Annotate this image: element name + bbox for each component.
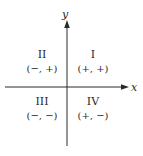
- y-axis: y: [61, 8, 70, 146]
- quadrant-i: I (+, +): [78, 48, 109, 74]
- x-axis-arrow-icon: [121, 84, 129, 90]
- quadrant-i-numeral: I: [91, 48, 95, 61]
- quadrant-ii-signs: (−, +): [27, 63, 58, 74]
- quadrant-ii: II (−, +): [27, 48, 58, 74]
- y-axis-label: y: [61, 8, 69, 21]
- x-axis-label: x: [131, 81, 138, 94]
- y-axis-arrow-icon: [64, 20, 70, 28]
- quadrant-iv-numeral: IV: [87, 95, 100, 108]
- quadrant-iii-signs: (−, −): [27, 110, 58, 121]
- x-axis: x: [5, 81, 138, 94]
- quadrant-iii-numeral: III: [35, 95, 48, 108]
- quadrant-iv-signs: (+, −): [78, 110, 109, 121]
- quadrant-i-signs: (+, +): [78, 63, 109, 74]
- quadrant-iv: IV (+, −): [78, 95, 109, 121]
- quadrant-ii-numeral: II: [38, 48, 47, 61]
- coordinate-plane-diagram: x y II (−, +) I (+, +) III (−, −) IV (+,…: [0, 0, 143, 156]
- quadrant-iii: III (−, −): [27, 95, 58, 121]
